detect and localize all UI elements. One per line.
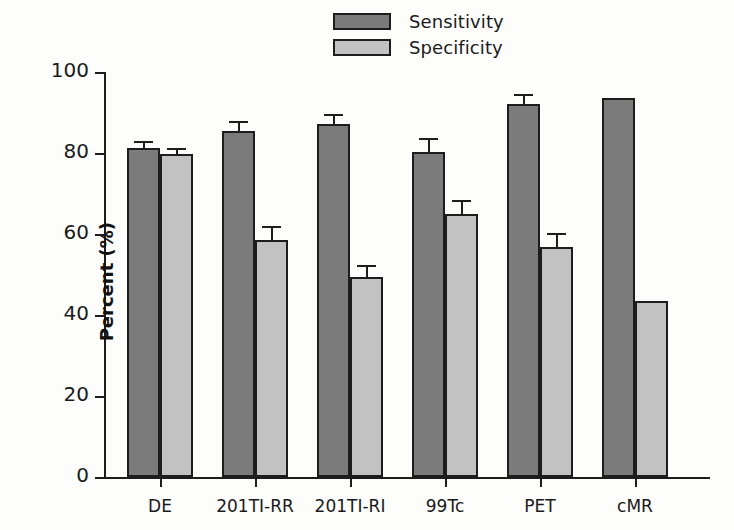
bar-chart-figure: Sensitivity Specificity Percent (%) 0204…: [0, 0, 734, 530]
bar-specificity: [445, 214, 478, 477]
error-bar-stem: [523, 96, 525, 104]
error-bar-stem: [333, 116, 335, 124]
x-axis-tick: [160, 477, 162, 487]
legend-item-specificity: Specificity: [333, 34, 593, 60]
bar-sensitivity: [412, 152, 445, 477]
x-axis-tick: [635, 477, 637, 487]
bar-sensitivity: [507, 104, 540, 477]
y-axis-tick-label: 0: [76, 464, 89, 486]
error-bar-cap: [134, 141, 153, 143]
y-axis-tick-label: 20: [64, 383, 89, 405]
x-axis-tick-label: 201TI-RI: [315, 496, 386, 516]
bar-sensitivity: [602, 98, 635, 477]
error-bar-stem: [556, 235, 558, 247]
y-axis-tick: 40: [95, 315, 104, 317]
bar-sensitivity: [127, 148, 160, 477]
error-bar-stem: [238, 123, 240, 131]
y-axis-tick: 80: [95, 153, 104, 155]
x-axis-tick: [445, 477, 447, 487]
y-axis-tick: 60: [95, 234, 104, 236]
error-bar-cap: [229, 121, 248, 123]
error-bar-stem: [366, 267, 368, 277]
error-bar-cap: [357, 265, 376, 267]
legend-label-specificity: Specificity: [409, 37, 503, 58]
y-axis-tick-label: 40: [64, 302, 89, 324]
error-bar-stem: [428, 140, 430, 152]
y-axis-tick: 0: [95, 477, 104, 479]
x-axis-line: [104, 477, 710, 479]
y-axis-title: Percent (%): [96, 222, 117, 341]
x-axis-tick-label: DE: [148, 496, 172, 516]
error-bar-stem: [271, 228, 273, 240]
error-bar-cap: [514, 94, 533, 96]
plot-area: Percent (%) 020406080100 DE201TI-RR201TI…: [104, 72, 710, 477]
y-axis-tick-label: 60: [64, 221, 89, 243]
y-axis-tick: 20: [95, 396, 104, 398]
legend-swatch-sensitivity: [333, 13, 391, 30]
error-bar-cap: [547, 233, 566, 235]
bar-specificity: [540, 247, 573, 477]
bar-sensitivity: [317, 124, 350, 477]
y-axis-tick-label: 100: [51, 59, 89, 81]
legend-label-sensitivity: Sensitivity: [409, 11, 504, 32]
bar-specificity: [635, 301, 668, 477]
error-bar-stem: [176, 150, 178, 154]
y-axis-tick: 100: [95, 72, 104, 74]
error-bar-cap: [167, 148, 186, 150]
x-axis-tick-label: cMR: [617, 496, 653, 516]
x-axis-tick: [255, 477, 257, 487]
legend-swatch-specificity: [333, 39, 391, 56]
x-axis-tick: [350, 477, 352, 487]
x-axis-tick: [540, 477, 542, 487]
y-axis-tick-label: 80: [64, 140, 89, 162]
bar-specificity: [160, 154, 193, 477]
bar-specificity: [350, 277, 383, 477]
error-bar-stem: [461, 202, 463, 214]
legend-item-sensitivity: Sensitivity: [333, 8, 593, 34]
error-bar-cap: [262, 226, 281, 228]
x-axis-tick-label: PET: [524, 496, 555, 516]
bar-sensitivity: [222, 131, 255, 477]
error-bar-cap: [419, 138, 438, 140]
error-bar-cap: [452, 200, 471, 202]
error-bar-stem: [143, 143, 145, 148]
x-axis-tick-label: 201TI-RR: [216, 496, 294, 516]
chart-legend: Sensitivity Specificity: [333, 8, 593, 60]
bar-specificity: [255, 240, 288, 477]
x-axis-tick-label: 99Tc: [426, 496, 464, 516]
error-bar-cap: [324, 114, 343, 116]
